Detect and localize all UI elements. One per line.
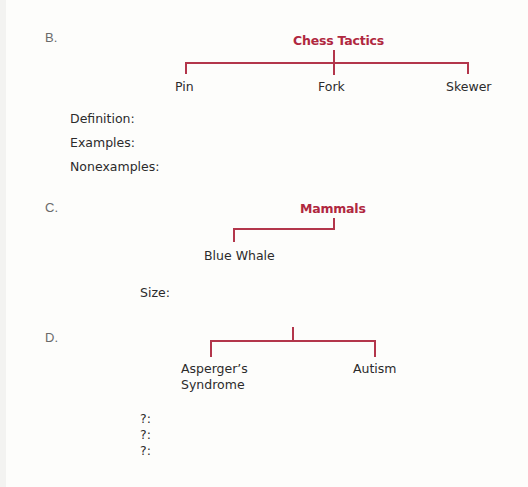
- section-letter: D.: [45, 330, 58, 345]
- connector-drop-pin: [185, 62, 187, 74]
- child-node-pin: Pin: [175, 79, 194, 94]
- field-examples: Examples:: [70, 135, 135, 150]
- field-unknown-2: ?:: [140, 427, 151, 442]
- connector-stem: [292, 327, 294, 341]
- field-definition: Definition:: [70, 111, 135, 126]
- connector-bar: [210, 340, 376, 342]
- field-nonexamples: Nonexamples:: [70, 159, 159, 174]
- field-unknown-3: ?:: [140, 443, 151, 458]
- connector-drop-skewer: [467, 62, 469, 74]
- child-node-line: Syndrome: [181, 377, 248, 393]
- section-letter: B.: [45, 30, 57, 45]
- child-node-fork: Fork: [318, 79, 345, 94]
- page-edge: [0, 0, 6, 487]
- field-size: Size:: [140, 285, 170, 300]
- child-node-line: Asperger’s: [181, 361, 248, 377]
- child-node-skewer: Skewer: [446, 79, 491, 94]
- connector-bar: [233, 228, 335, 230]
- child-node-aspergers: Asperger’s Syndrome: [181, 361, 248, 393]
- child-node-autism: Autism: [353, 361, 397, 376]
- connector-drop-autism: [374, 340, 376, 357]
- concept-title: Mammals: [300, 201, 366, 216]
- section-letter: C.: [45, 200, 58, 215]
- child-node-blue-whale: Blue Whale: [204, 248, 275, 263]
- concept-title: Chess Tactics: [293, 33, 384, 48]
- connector-bar: [185, 62, 469, 64]
- connector-drop-aspergers: [210, 340, 212, 357]
- field-unknown-1: ?:: [140, 411, 151, 426]
- connector-drop-blue-whale: [233, 228, 235, 242]
